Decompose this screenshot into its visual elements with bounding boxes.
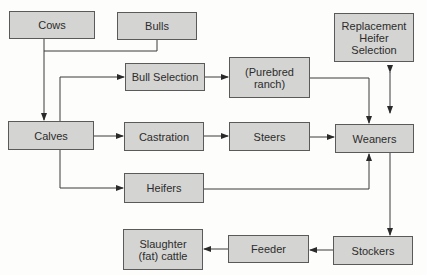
node-replacement-heifer-selection: Replacement Heifer Selection	[334, 13, 414, 62]
node-bull-selection: Bull Selection	[125, 63, 205, 91]
node-slaughter-fat-cattle-label: Slaughter (fat) cattle	[139, 238, 188, 262]
flowchart-canvas: Cows Bulls Bull Selection (Purebred ranc…	[0, 0, 427, 275]
node-cows-label: Cows	[38, 19, 66, 31]
node-castration: Castration	[124, 122, 204, 151]
edge-bulls-join	[44, 39, 157, 51]
node-heifers: Heifers	[124, 173, 204, 203]
node-weaners: Weaners	[335, 124, 414, 153]
node-cows: Cows	[9, 11, 95, 39]
node-stockers: Stockers	[333, 236, 413, 265]
node-calves-label: Calves	[34, 130, 68, 142]
edge-calves-heifers	[60, 150, 123, 188]
node-replacement-heifer-selection-label: Replacement Heifer Selection	[342, 20, 407, 56]
node-bulls: Bulls	[117, 12, 197, 40]
edge-calves-bullselection	[60, 77, 124, 121]
node-steers: Steers	[229, 122, 310, 151]
edge-purebred-weaners	[310, 78, 369, 123]
node-purebred-ranch: (Purebred ranch)	[229, 57, 310, 98]
node-castration-label: Castration	[139, 131, 189, 143]
node-bulls-label: Bulls	[145, 20, 169, 32]
node-purebred-ranch-label: (Purebred ranch)	[245, 66, 294, 90]
node-calves: Calves	[8, 121, 94, 150]
node-slaughter-fat-cattle: Slaughter (fat) cattle	[123, 229, 203, 270]
node-weaners-label: Weaners	[353, 133, 397, 145]
node-bull-selection-label: Bull Selection	[132, 71, 199, 83]
node-stockers-label: Stockers	[352, 245, 395, 257]
node-feeder: Feeder	[228, 235, 309, 263]
node-steers-label: Steers	[254, 131, 286, 143]
node-heifers-label: Heifers	[147, 182, 182, 194]
edge-heifers-weaners	[204, 154, 369, 189]
node-feeder-label: Feeder	[251, 243, 286, 255]
